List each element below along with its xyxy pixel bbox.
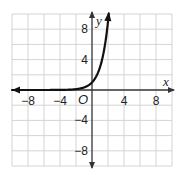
- origin-label: O: [78, 92, 88, 107]
- x-tick-label: −8: [21, 94, 35, 108]
- y-tick-label: 8: [81, 22, 88, 36]
- x-axis-label: x: [162, 74, 169, 89]
- y-tick-label: −4: [74, 113, 88, 127]
- graph: −8−44884−4−8 x y O: [0, 0, 178, 171]
- x-tick-label: 4: [121, 94, 128, 108]
- x-tick-label: −4: [53, 94, 67, 108]
- curve-arrow-up-icon: [104, 12, 111, 22]
- y-axis-label: y: [94, 13, 102, 28]
- curve-arrow-left-icon: [12, 87, 20, 94]
- x-tick-label: 8: [153, 94, 160, 108]
- y-tick-label: 4: [81, 53, 88, 67]
- y-tick-label: −8: [74, 144, 88, 158]
